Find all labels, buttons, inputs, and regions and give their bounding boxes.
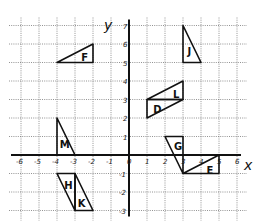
- y-tick-label: -2: [119, 189, 127, 197]
- shape-label: M: [60, 139, 70, 150]
- x-tick-label: -1: [106, 158, 113, 166]
- shape-label: G: [174, 141, 182, 152]
- x-tick-label: 1: [145, 158, 149, 166]
- shape-label: J: [187, 46, 192, 57]
- y-tick-label: -3: [119, 208, 126, 216]
- shape-label: K: [78, 198, 87, 209]
- y-tick-label: 6: [123, 41, 128, 49]
- shape-label: D: [153, 104, 161, 115]
- shape-label: E: [206, 165, 213, 176]
- y-tick-label: -1: [119, 171, 126, 179]
- y-tick-label: 4: [123, 78, 127, 86]
- x-tick-label: -5: [34, 158, 42, 166]
- y-tick-label: 7: [123, 23, 128, 31]
- y-tick-label: 3: [123, 97, 127, 105]
- shape-label: F: [81, 52, 88, 63]
- x-tick-label: 2: [163, 158, 168, 166]
- x-tick-label: -6: [16, 158, 24, 166]
- y-tick-label: 2: [123, 115, 128, 123]
- shape-label: L: [173, 89, 180, 100]
- coordinate-grid: -6-5-4-3-2-10123456-3-2-11234567 FJLDMHK…: [0, 0, 261, 223]
- y-tick-label: 5: [123, 60, 128, 68]
- x-tick-label: -2: [88, 158, 96, 166]
- x-tick-label: -3: [70, 158, 77, 166]
- y-axis-label: y: [103, 17, 113, 33]
- x-tick-label: 0: [127, 158, 132, 166]
- shape-label: H: [64, 180, 72, 191]
- x-tick-label: 6: [235, 158, 240, 166]
- x-axis-label: x: [243, 157, 253, 173]
- y-tick-label: 1: [123, 134, 127, 142]
- x-tick-label: -4: [52, 158, 59, 166]
